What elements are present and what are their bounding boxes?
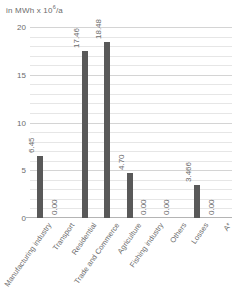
y-axis-unit-prefix: in MWh x 10 bbox=[6, 6, 53, 15]
bar-slot: 6.45 bbox=[30, 27, 50, 218]
plot-area: 20 15 10 5 0 6.450.0017.4618.484.700.000… bbox=[30, 27, 232, 218]
bar-value-label: 0.00 bbox=[162, 199, 171, 215]
bar-slot: 0.00 bbox=[210, 27, 230, 218]
y-axis-unit-suffix: /a bbox=[56, 6, 63, 15]
bar[interactable] bbox=[194, 185, 200, 218]
bar-series: 6.450.0017.4618.484.700.000.003.4660.00 bbox=[30, 27, 232, 218]
bar-value-label: 17.46 bbox=[72, 28, 81, 48]
bar-value-label: 0.00 bbox=[50, 199, 59, 215]
y-axis-unit-title: in MWh x 106/a bbox=[6, 4, 63, 15]
bar-slot: 0.00 bbox=[52, 27, 72, 218]
bar-value-label: 3.466 bbox=[184, 162, 193, 182]
y-tick-label-10: 10 bbox=[17, 118, 26, 127]
x-axis-category-label: Losses bbox=[190, 221, 211, 246]
y-tick-label-15: 15 bbox=[17, 70, 26, 79]
bar-slot: 17.46 bbox=[75, 27, 95, 218]
y-tick-label-20: 20 bbox=[17, 23, 26, 32]
bar-value-label: 0.00 bbox=[139, 199, 148, 215]
x-axis-category-labels: Manufacturing industryTransportResidenti… bbox=[30, 221, 232, 285]
x-axis-category-label: Others bbox=[168, 221, 188, 245]
bar-slot: 0.00 bbox=[165, 27, 185, 218]
bar[interactable] bbox=[104, 42, 110, 218]
y-tick-label-5: 5 bbox=[22, 166, 26, 175]
bar-slot: 3.466 bbox=[187, 27, 207, 218]
bar[interactable] bbox=[127, 173, 133, 218]
bar[interactable] bbox=[82, 51, 88, 218]
bar-value-label: 0.00 bbox=[207, 199, 216, 215]
x-axis-category-label: A* bbox=[221, 221, 233, 233]
bar-value-label: 6.45 bbox=[27, 138, 36, 154]
bar-slot: 4.70 bbox=[120, 27, 140, 218]
bar-value-label: 18.48 bbox=[94, 19, 103, 39]
x-axis-category-label: Manufacturing industry bbox=[3, 221, 54, 288]
bar-value-label: 4.70 bbox=[117, 155, 126, 171]
bar[interactable] bbox=[37, 156, 43, 218]
bar-slot: 18.48 bbox=[97, 27, 117, 218]
y-tick-label-0: 0 bbox=[22, 214, 26, 223]
bar-slot: 0.00 bbox=[142, 27, 162, 218]
